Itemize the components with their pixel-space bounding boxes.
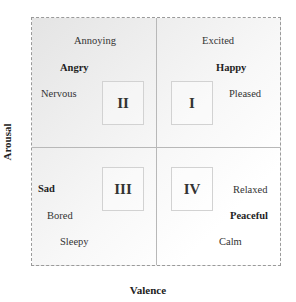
word-excited: Excited	[202, 35, 234, 46]
y-axis-label: Arousal	[1, 123, 13, 160]
quadrant-frame: II I III IV	[31, 17, 281, 266]
quadrant-i-label: I	[189, 95, 195, 112]
vertical-divider	[156, 18, 157, 265]
quadrant-ii-box: II	[102, 81, 144, 125]
quadrant-iv-label: IV	[184, 181, 201, 198]
word-nervous: Nervous	[41, 88, 77, 99]
horizontal-divider	[32, 147, 280, 148]
word-pleased: Pleased	[229, 88, 261, 99]
word-bored: Bored	[47, 210, 73, 221]
word-happy: Happy	[216, 62, 246, 73]
quadrant-i-box: I	[171, 81, 213, 125]
word-angry: Angry	[60, 62, 89, 73]
quadrant-iii-box: III	[102, 167, 144, 211]
word-sleepy: Sleepy	[60, 236, 89, 247]
word-calm: Calm	[219, 236, 242, 247]
quadrant-iii-label: III	[114, 181, 132, 198]
word-relaxed: Relaxed	[233, 184, 267, 195]
word-annoying-label: Annoying	[74, 35, 116, 46]
word-peaceful: Peaceful	[230, 210, 268, 221]
word-sad: Sad	[38, 183, 55, 194]
quadrant-ii-label: II	[117, 95, 129, 112]
quadrant-iv-box: IV	[171, 167, 213, 211]
x-axis-label: Valence	[0, 284, 296, 296]
